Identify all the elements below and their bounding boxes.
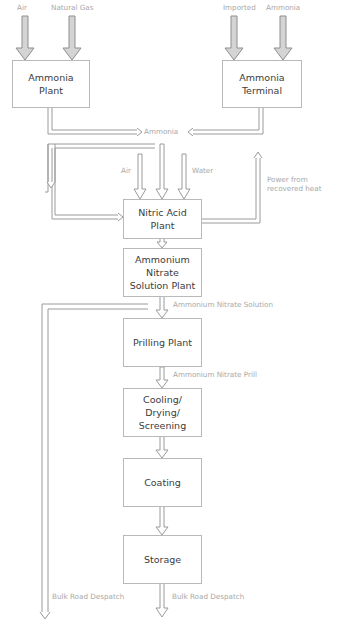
node-label: Storage: [144, 553, 181, 566]
node-label: Ammonia Terminal: [239, 71, 284, 97]
arrow-solution-to-prilling: [156, 296, 168, 318]
input-arrow-natural-gas: [63, 16, 81, 60]
node-an-solution-plant: Ammonium Nitrate Solution Plant: [123, 248, 202, 297]
node-nitric-acid-plant: Nitric Acid Plant: [123, 199, 202, 239]
node-ammonia-plant: Ammonia Plant: [12, 60, 90, 108]
input-arrow-air-ammonia: [16, 16, 34, 60]
label-input-air: Air: [17, 3, 27, 12]
input-arrow-imported: [225, 16, 243, 60]
node-storage: Storage: [123, 535, 202, 584]
label-input-ammonia: Ammonia: [266, 3, 300, 12]
label-input-natural-gas: Natural Gas: [51, 3, 94, 12]
node-label: Ammonia Plant: [28, 71, 73, 97]
pipe-ammonia-terminal-out: [188, 108, 263, 136]
node-label: Prilling Plant: [133, 336, 192, 349]
label-ammonia-header: Ammonia: [144, 127, 178, 136]
node-label: Ammonium Nitrate Solution Plant: [130, 253, 196, 292]
arrow-cooling-to-coating: [156, 436, 168, 458]
label-input-imported: Imported: [223, 3, 256, 12]
label-an-prill: Ammonium Nitrate Prill: [173, 370, 257, 379]
node-coating: Coating: [123, 458, 202, 507]
arrow-ammonia-to-nitric: [156, 144, 168, 199]
pipe-power-recovered: [201, 152, 262, 223]
node-label: Coating: [144, 476, 181, 489]
label-power-recovered: Power from recovered heat: [267, 175, 322, 193]
arrow-air-to-nitric: [134, 154, 146, 199]
node-ammonia-terminal: Ammonia Terminal: [222, 60, 302, 108]
label-an-solution: Ammonium Nitrate Solution: [173, 300, 273, 309]
arrow-storage-to-bulk: [156, 583, 168, 617]
node-label: Cooling/ Drying/ Screening: [139, 393, 186, 432]
arrow-nitric-to-solution: [157, 238, 167, 248]
arrow-prilling-to-cooling: [156, 367, 168, 388]
label-bulk-road-despatch-right: Bulk Road Despatch: [172, 592, 244, 601]
arrow-coating-to-storage: [156, 506, 168, 535]
arrow-water-to-nitric: [178, 154, 190, 199]
node-cooling-drying-screening: Cooling/ Drying/ Screening: [123, 388, 202, 437]
node-prilling-plant: Prilling Plant: [123, 318, 202, 367]
label-bulk-road-despatch-left: Bulk Road Despatch: [52, 592, 124, 601]
label-input-water: Water: [192, 166, 213, 175]
pipe-ammonia-plant-out: [48, 108, 142, 136]
label-input-air-nitric: Air: [121, 166, 131, 175]
node-label: Nitric Acid Plant: [138, 206, 186, 232]
input-arrow-ammonia-import: [274, 16, 292, 60]
